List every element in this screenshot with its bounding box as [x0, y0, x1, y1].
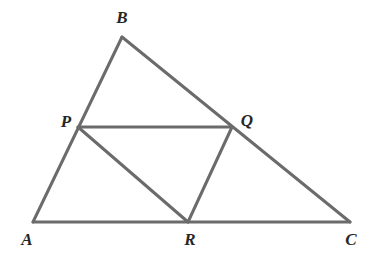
vertex-label-q: Q: [241, 112, 253, 129]
segment-group: [33, 37, 350, 222]
vertex-label-b: B: [116, 9, 127, 26]
vertex-label-p: P: [61, 113, 71, 130]
geometry-figure: ABCPQR: [0, 0, 374, 257]
vertex-label-c: C: [345, 231, 356, 248]
side-ab: [33, 37, 122, 222]
segment-pr: [78, 127, 188, 222]
segment-qr: [188, 127, 232, 222]
vertex-label-r: R: [184, 231, 195, 248]
vertex-label-a: A: [21, 231, 32, 248]
geometry-canvas: [0, 0, 374, 257]
